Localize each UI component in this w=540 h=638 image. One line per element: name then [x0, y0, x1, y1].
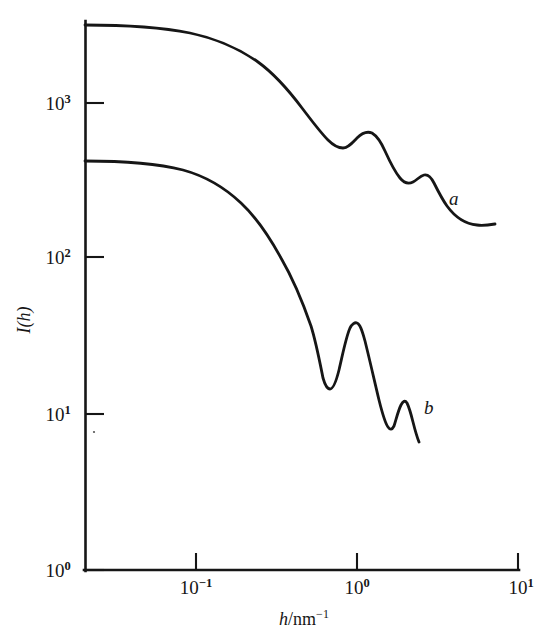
curve-b-label: b	[424, 397, 434, 418]
x-axis-tick-labels: 10−1 100 101	[180, 576, 534, 598]
y-axis-ticks	[86, 103, 104, 570]
curve-a	[85, 25, 495, 225]
y-tick-label-1000: 103	[45, 92, 70, 114]
y-tick-label-1: 100	[45, 559, 70, 581]
y-axis-tick-labels: 103 102 101 100	[45, 92, 70, 581]
y-tick-label-100: 102	[45, 246, 70, 268]
x-tick-label-0.1: 10−1	[180, 576, 212, 598]
curve-b	[85, 161, 419, 442]
log-log-plot: 103 102 101 100 10−1 100 101	[0, 0, 540, 638]
x-axis-ticks	[196, 553, 518, 569]
curve-a-label: a	[449, 188, 459, 209]
axes-group	[84, 21, 519, 571]
scan-speck	[93, 431, 95, 433]
y-tick-label-10: 101	[45, 403, 70, 425]
x-axis-title: h/nm−1	[279, 607, 329, 629]
figure-container: 103 102 101 100 10−1 100 101	[0, 0, 540, 638]
x-tick-label-10: 101	[508, 576, 533, 598]
y-axis-title: I(h)	[14, 307, 35, 335]
x-tick-label-1: 100	[344, 576, 369, 598]
